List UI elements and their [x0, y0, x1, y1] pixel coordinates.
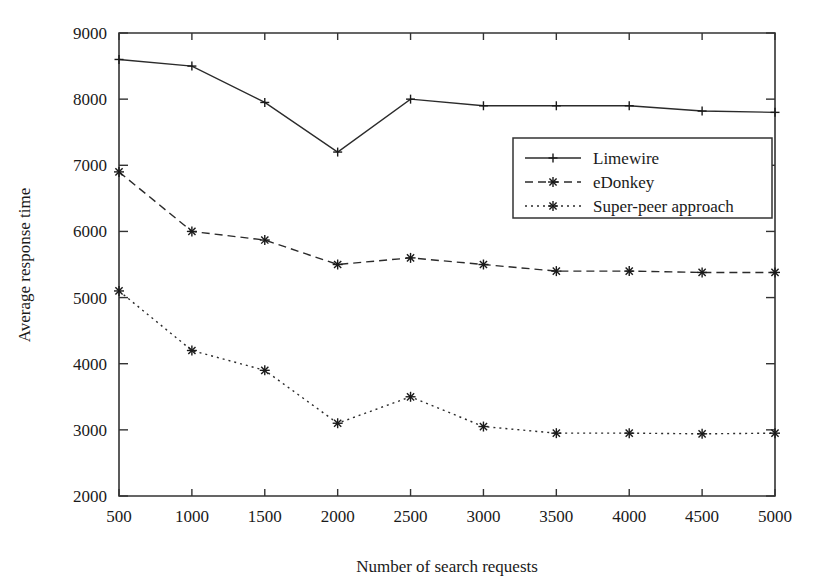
x-tick-label: 2000 — [321, 507, 355, 526]
chart-background — [0, 0, 838, 588]
legend-label-super-peer-approach: Super-peer approach — [593, 197, 734, 216]
x-tick-label: 2500 — [394, 507, 428, 526]
y-tick-label: 5000 — [73, 289, 107, 308]
legend-label-edonkey: eDonkey — [593, 173, 655, 192]
legend-label-limewire: Limewire — [593, 149, 659, 168]
x-axis-title: Number of search requests — [356, 557, 538, 576]
x-tick-label: 500 — [106, 507, 132, 526]
x-tick-label: 3000 — [466, 507, 500, 526]
y-tick-label: 7000 — [73, 156, 107, 175]
x-tick-label: 4000 — [612, 507, 646, 526]
x-tick-label: 3500 — [539, 507, 573, 526]
x-tick-label: 4500 — [685, 507, 719, 526]
x-tick-label: 1000 — [175, 507, 209, 526]
chart-legend: LimewireeDonkeySuper-peer approach — [513, 138, 772, 218]
response-time-line-chart: 500100015002000250030003500400045005000 … — [0, 0, 838, 588]
x-tick-label: 1500 — [248, 507, 282, 526]
y-tick-label: 3000 — [73, 421, 107, 440]
y-tick-label: 9000 — [73, 24, 107, 43]
x-tick-label: 5000 — [758, 507, 792, 526]
y-tick-label: 6000 — [73, 222, 107, 241]
y-axis-title: Average response time — [15, 188, 34, 343]
y-tick-label: 8000 — [73, 90, 107, 109]
y-tick-label: 4000 — [73, 355, 107, 374]
y-tick-label: 2000 — [73, 487, 107, 506]
